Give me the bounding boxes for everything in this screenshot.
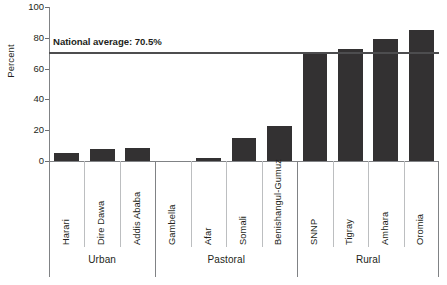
x-axis-category-label: Harari [61, 219, 71, 245]
y-axis-tick-label: 0 [16, 156, 44, 166]
national-average-line [49, 52, 439, 53]
group-label-band: UrbanPastoralRural [49, 247, 439, 277]
category-label-band: HarariDire DawaAddis AbabaGambellaAfarSo… [49, 161, 439, 247]
bar-chart: Percent 020406080100 National average: 7… [0, 0, 447, 285]
x-axis-category-label: Afar [203, 228, 213, 245]
bar-series [49, 7, 439, 161]
y-axis-tick-label: 60 [16, 64, 44, 74]
bar [232, 138, 257, 161]
group-label: Pastoral [155, 254, 297, 265]
x-axis-category-label: SNNP [309, 219, 319, 245]
x-axis-category-label: Oromia [415, 214, 425, 245]
x-axis-category-label: Benishangul-Gumuz [273, 159, 283, 245]
x-axis-category-label: Addis Ababa [132, 192, 142, 245]
bar [409, 30, 434, 161]
national-average-label: National average: 70.5% [53, 36, 162, 47]
category-separator [120, 161, 121, 247]
category-separator [368, 161, 369, 247]
x-axis-category-label: Tigray [344, 219, 354, 245]
x-axis-category-label: Gambella [167, 204, 177, 245]
group-label: Rural [297, 254, 439, 265]
bar [125, 148, 150, 161]
y-axis-tick-label: 40 [16, 94, 44, 104]
x-axis-category-label: Amhara [380, 212, 390, 245]
bar [267, 126, 292, 161]
group-label: Urban [49, 254, 155, 265]
bar [373, 39, 398, 161]
bar [90, 149, 115, 161]
x-axis-category-label: Dire Dawa [96, 201, 106, 245]
x-axis-category-label: Somali [238, 216, 248, 245]
category-separator [84, 161, 85, 247]
category-separator [226, 161, 227, 247]
category-separator [333, 161, 334, 247]
y-axis-tick-label: 80 [16, 33, 44, 43]
bar [303, 53, 328, 161]
category-separator [404, 161, 405, 247]
category-separator [191, 161, 192, 247]
y-axis-tick-label: 100 [16, 2, 44, 12]
bar [338, 49, 363, 161]
category-separator [262, 161, 263, 247]
bar [54, 153, 79, 161]
y-axis-tick-label: 20 [16, 125, 44, 135]
